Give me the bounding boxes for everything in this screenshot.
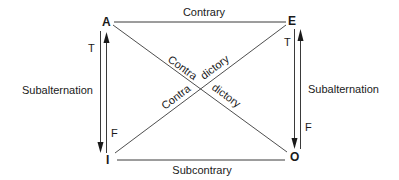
left-true-label: T [88,42,95,54]
left-subalternation-label: Subalternation [22,84,93,96]
right-true-label: T [284,36,291,48]
right-subalternation-label: Subalternation [308,83,379,95]
contradictory-line-i-e [115,25,286,153]
corner-i-label: I [106,153,109,167]
contradictory-label-ie-part1: dictory [198,52,231,81]
right-down-arrowhead-icon [292,138,298,149]
corner-o-label: O [290,150,299,164]
right-up-arrowhead-icon [298,29,304,41]
square-of-opposition-diagram: A E I O Contrary Subcontrary Subalternat… [0,0,399,180]
left-up-arrowhead-icon [104,32,110,43]
contrary-label: Contrary [183,6,226,18]
subcontrary-label: Subcontrary [172,164,232,176]
corner-e-label: E [288,14,296,28]
left-false-label: F [111,127,118,139]
corner-a-label: A [102,15,111,29]
contradictory-label-ao-part2: dictory [210,81,244,110]
right-false-label: F [305,121,312,133]
left-down-arrowhead-icon [98,142,104,153]
